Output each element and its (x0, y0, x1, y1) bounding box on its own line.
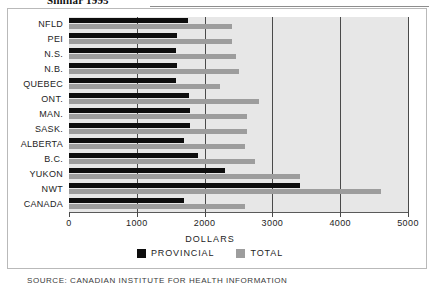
x-axis-line (69, 212, 409, 213)
bar-provincial (69, 18, 188, 23)
y-axis-tick-label: N.S. (0, 49, 66, 60)
legend-entry: TOTAL (236, 248, 283, 258)
bar-provincial (69, 153, 198, 158)
x-axis-tick-label: 1000 (126, 218, 148, 228)
bar-total (69, 99, 259, 104)
y-axis-tick-label: B.C. (0, 154, 66, 165)
bar-provincial (69, 138, 184, 143)
y-axis-label-row: NWT (0, 182, 66, 197)
x-axis-tick (272, 212, 273, 217)
bar-group (69, 47, 408, 62)
title-divider (150, 6, 429, 7)
x-axis-tick-label: 4000 (329, 218, 351, 228)
bar-group (69, 92, 408, 107)
bar-group (69, 152, 408, 167)
bar-total (69, 24, 232, 29)
bar-total (69, 144, 245, 149)
y-axis-tick-label: NWT (0, 184, 66, 195)
bar-total (69, 54, 236, 59)
bar-group (69, 167, 408, 182)
bar-total (69, 189, 381, 194)
chart-title: Similar 1995 (47, 0, 109, 6)
bar-provincial (69, 93, 189, 98)
legend-swatch (236, 249, 245, 258)
legend-label: PROVINCIAL (151, 248, 215, 258)
y-axis-label-row: ALBERTA (0, 137, 66, 152)
bar-total (69, 174, 300, 179)
source-note: SOURCE: CANADIAN INSTITUTE FOR HEALTH IN… (27, 276, 287, 285)
y-axis-label-row: B.C. (0, 152, 66, 167)
x-axis-title: DOLLARS (0, 234, 420, 244)
bar-group (69, 137, 408, 152)
bar-group (69, 182, 408, 197)
y-axis-label-row: SASK. (0, 122, 66, 137)
bar-group (69, 62, 408, 77)
bar-provincial (69, 123, 190, 128)
chart-figure: Similar 1995 NFLDPEIN.S.N.B.QUEBECONT.MA… (0, 0, 431, 295)
bar-group (69, 77, 408, 92)
x-axis-tick-label: 3000 (262, 218, 284, 228)
bar-provincial (69, 63, 177, 68)
y-axis-tick-label: SASK. (0, 124, 66, 135)
bar-provincial (69, 168, 225, 173)
bar-provincial (69, 33, 177, 38)
bar-total (69, 39, 232, 44)
bar-group (69, 17, 408, 32)
y-axis-label-row: MAN. (0, 107, 66, 122)
x-axis-tick-label: 2000 (194, 218, 216, 228)
x-axis-tick (69, 212, 70, 217)
y-axis-tick-label: ALBERTA (0, 139, 66, 150)
x-axis-tick (205, 212, 206, 217)
legend-entry: PROVINCIAL (137, 248, 215, 258)
y-axis-label-row: NFLD (0, 17, 66, 32)
bar-provincial (69, 48, 176, 53)
y-axis-label-row: PEI (0, 32, 66, 47)
y-axis-label-row: N.S. (0, 47, 66, 62)
y-axis-tick-label: CANADA (0, 199, 66, 210)
y-axis-tick-label: ONT. (0, 94, 66, 105)
bar-group (69, 107, 408, 122)
bar-provincial (69, 198, 184, 203)
bar-total (69, 114, 247, 119)
bar-total (69, 84, 220, 89)
x-axis-tick (137, 212, 138, 217)
x-axis-tick (408, 212, 409, 217)
x-axis-tick-label: 0 (66, 218, 71, 228)
y-axis-label-row: N.B. (0, 62, 66, 77)
bar-group (69, 122, 408, 137)
y-axis-tick-label: N.B. (0, 64, 66, 75)
x-axis-tick-label: 5000 (397, 218, 419, 228)
y-axis-labels: NFLDPEIN.S.N.B.QUEBECONT.MAN.SASK.ALBERT… (0, 17, 66, 212)
legend-label: TOTAL (250, 248, 283, 258)
y-axis-tick-label: PEI (0, 34, 66, 45)
bar-provincial (69, 183, 300, 188)
bar-group (69, 32, 408, 47)
bar-provincial (69, 78, 176, 83)
gridline (408, 17, 409, 212)
bar-group (69, 197, 408, 212)
y-axis-tick-label: NFLD (0, 19, 66, 30)
plot-area (69, 17, 408, 212)
legend-swatch (137, 249, 146, 258)
y-axis-tick-label: YUKON (0, 169, 66, 180)
bar-total (69, 159, 255, 164)
y-axis-label-row: CANADA (0, 197, 66, 212)
bar-provincial (69, 108, 190, 113)
bar-total (69, 69, 239, 74)
y-axis-label-row: YUKON (0, 167, 66, 182)
y-axis-label-row: QUEBEC (0, 77, 66, 92)
y-axis-tick-label: MAN. (0, 109, 66, 120)
y-axis-tick-label: QUEBEC (0, 79, 66, 90)
x-axis-tick (340, 212, 341, 217)
bar-total (69, 129, 247, 134)
bar-total (69, 204, 245, 209)
chart-legend: PROVINCIALTOTAL (0, 248, 420, 258)
y-axis-label-row: ONT. (0, 92, 66, 107)
